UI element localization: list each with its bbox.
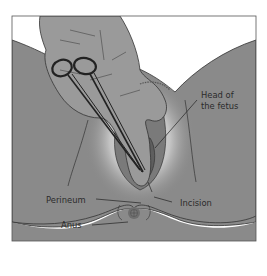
label-anus: Anus bbox=[61, 220, 82, 230]
label-head-line1: Head of bbox=[201, 90, 235, 100]
label-perineum: Perineum bbox=[46, 195, 86, 205]
label-incision: Incision bbox=[180, 198, 212, 208]
episiotomy-diagram: Head of the fetus Perineum Incision Anus bbox=[0, 0, 267, 276]
label-head-line2: the fetus bbox=[201, 101, 238, 111]
